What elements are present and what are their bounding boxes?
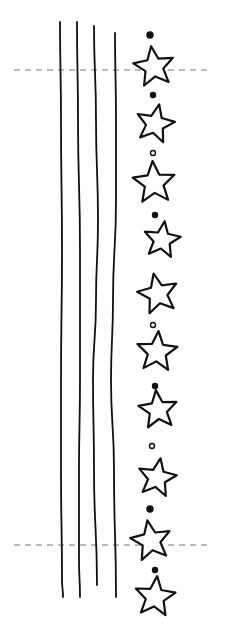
line-4 bbox=[111, 33, 116, 597]
star-icon bbox=[145, 221, 181, 257]
pattern-drawing bbox=[0, 0, 227, 632]
hollow-dot-icon bbox=[151, 151, 156, 156]
filled-dot-icon bbox=[153, 568, 158, 573]
line-1 bbox=[60, 22, 63, 597]
star-icon bbox=[130, 520, 169, 560]
hollow-dot-icon bbox=[150, 444, 155, 449]
filled-dot-icon bbox=[151, 93, 156, 98]
filled-dot-icon bbox=[147, 506, 153, 512]
star-icon bbox=[133, 46, 173, 85]
star-icon bbox=[138, 331, 178, 370]
vertical-stitch-lines bbox=[60, 22, 116, 597]
filled-dot-icon bbox=[153, 384, 158, 389]
filled-dot-icon bbox=[153, 213, 158, 218]
line-3 bbox=[93, 26, 98, 585]
star-icon bbox=[138, 104, 175, 142]
star-icon bbox=[138, 390, 176, 427]
filled-dot-icon bbox=[147, 32, 153, 38]
star-icon bbox=[139, 458, 177, 496]
star-motifs bbox=[130, 46, 181, 615]
guide-lines bbox=[14, 70, 210, 545]
line-2 bbox=[77, 22, 80, 597]
star-icon bbox=[137, 274, 176, 314]
star-icon bbox=[136, 576, 176, 615]
star-icon bbox=[133, 161, 175, 202]
hollow-dot-icon bbox=[151, 323, 156, 328]
pattern-canvas bbox=[0, 0, 227, 632]
